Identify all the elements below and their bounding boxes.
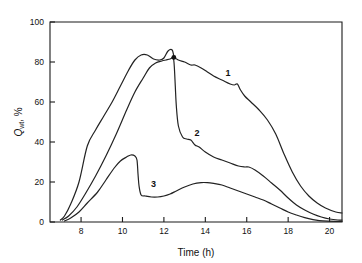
x-tick-label: 14 bbox=[201, 226, 211, 236]
x-tick-label: 8 bbox=[79, 226, 84, 236]
y-axis-title: Qwt, % bbox=[13, 107, 25, 136]
x-tick-label: 10 bbox=[118, 226, 128, 236]
series-label-3: 3 bbox=[151, 179, 156, 189]
y-axis-title-suffix: , % bbox=[13, 107, 24, 122]
data-markers bbox=[171, 55, 176, 60]
line-chart: 020406080100 8101214161820 Time (h) Qwt,… bbox=[0, 0, 362, 263]
series-label-2: 2 bbox=[195, 128, 200, 138]
series-label-1: 1 bbox=[226, 68, 231, 78]
x-axis-title: Time (h) bbox=[178, 247, 215, 258]
y-tick-label: 20 bbox=[35, 177, 45, 187]
y-tick-label: 100 bbox=[30, 17, 44, 27]
x-tick-label: 20 bbox=[325, 226, 335, 236]
x-tick-label: 18 bbox=[283, 226, 293, 236]
y-axis-title-subscript: wt bbox=[18, 122, 25, 130]
svg-text:Qwt, %: Qwt, % bbox=[13, 107, 25, 136]
x-tick-label: 16 bbox=[242, 226, 252, 236]
y-tick-label: 0 bbox=[39, 217, 44, 227]
y-tick-label: 80 bbox=[35, 57, 45, 67]
chart-container: 020406080100 8101214161820 Time (h) Qwt,… bbox=[0, 0, 362, 263]
peak-marker bbox=[171, 55, 176, 60]
y-tick-label: 60 bbox=[35, 97, 45, 107]
y-tick-label: 40 bbox=[35, 137, 45, 147]
x-tick-label: 12 bbox=[159, 226, 169, 236]
chart-background bbox=[0, 0, 362, 263]
